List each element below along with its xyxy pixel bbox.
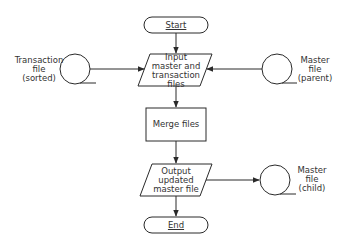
end-label: End (144, 217, 208, 233)
transaction-tape-label-line-3: (sorted) (12, 74, 66, 83)
input-label-line-4: files (167, 80, 184, 89)
master-child-tape-shape (260, 165, 290, 195)
start-label: Start (144, 17, 208, 33)
transaction-tape-label: Transaction file (sorted) (12, 56, 66, 83)
master-child-tape-label-line-3: (child) (292, 184, 332, 193)
master-parent-tape-shape (262, 54, 292, 84)
master-parent-tape-label-line-3: (parent) (292, 74, 338, 83)
merge-label: Merge files (146, 108, 206, 141)
master-child-tape-label: Master file (child) (292, 166, 332, 193)
output-label: Output updated master file (146, 164, 206, 196)
output-label-line-3: master file (153, 185, 199, 194)
input-label: Input master and transaction files (145, 54, 207, 88)
master-parent-tape-label: Master file (parent) (292, 56, 338, 83)
